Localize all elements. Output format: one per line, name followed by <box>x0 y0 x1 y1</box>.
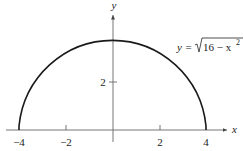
equation-lhs: y = <box>176 41 192 53</box>
semicircle-curve <box>19 40 206 130</box>
x-tick-label: −2 <box>60 136 72 148</box>
y-tick-label: 2 <box>100 76 106 88</box>
y-axis-label: y <box>111 0 117 11</box>
equation-label: y = 16 − x 2 <box>176 38 243 53</box>
x-tick-label: 4 <box>203 136 209 148</box>
x-tick-label: −4 <box>13 136 25 148</box>
x-axis-label: x <box>231 123 237 135</box>
semicircle-chart: −4 −2 2 4 2 x y y = 16 − x 2 <box>0 0 244 151</box>
equation-radicand: 16 − x <box>203 41 232 53</box>
x-tick-label: 2 <box>157 136 163 148</box>
equation-exponent: 2 <box>236 38 240 47</box>
